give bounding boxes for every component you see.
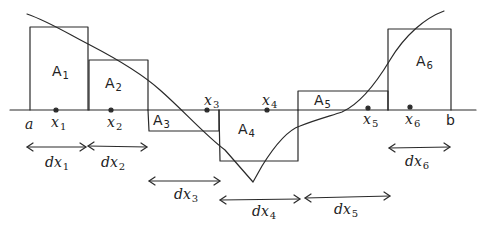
arrow-dx2	[88, 142, 147, 151]
rect-a5	[298, 91, 388, 110]
label-dx4: dx4	[252, 204, 276, 221]
arrow-dx1	[27, 143, 86, 151]
label-b: b	[446, 113, 455, 127]
label-dx3: dx3	[174, 187, 198, 204]
point-x1	[54, 108, 58, 112]
label-area-a1: A1	[52, 64, 69, 81]
label-area-a6: A6	[416, 54, 433, 71]
arrow-dx3	[149, 177, 220, 185]
label-x4: x4	[262, 93, 277, 110]
label-x6: x6	[405, 112, 420, 129]
label-dx5: dx5	[334, 202, 358, 219]
riemann-sum-diagram: a b x1 x2 x3 x4 x5 x6 A1 A2 A3 A4 A5 A6 …	[0, 0, 484, 236]
label-area-a5: A5	[314, 93, 331, 110]
label-x1: x1	[51, 115, 66, 132]
point-x2	[109, 108, 113, 112]
point-x6	[408, 105, 412, 109]
label-area-a3: A3	[153, 113, 170, 130]
label-area-a4: A4	[238, 122, 255, 139]
label-a: a	[25, 117, 33, 131]
label-x5: x5	[363, 112, 378, 129]
point-x5	[366, 106, 370, 110]
label-x2: x2	[107, 115, 122, 132]
label-dx6: dx6	[405, 154, 429, 171]
label-x3: x3	[204, 93, 219, 110]
label-dx1: dx1	[45, 155, 69, 172]
label-area-a2: A2	[105, 76, 122, 93]
label-dx2: dx2	[101, 155, 125, 172]
arrow-dx6	[389, 143, 450, 152]
